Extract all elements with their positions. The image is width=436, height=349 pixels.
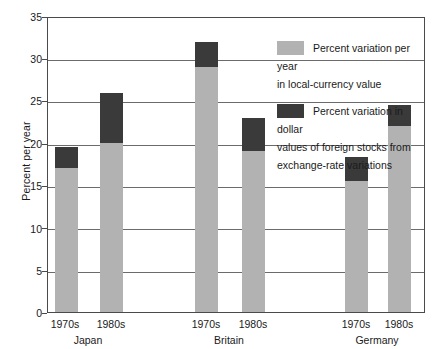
y-tick-label-20: 20 (12, 139, 42, 149)
bar-segment-fx (100, 93, 123, 143)
bar-segment-local (55, 168, 78, 312)
y-tick-label-0: 0 (12, 308, 42, 318)
legend-swatch-local-icon (277, 41, 304, 55)
y-tick-mark-0 (42, 313, 47, 314)
legend-swatch-fx-icon (277, 104, 304, 118)
bar-segment-local (100, 143, 123, 312)
bar-segment-local (242, 151, 265, 312)
y-tick-label-15: 15 (12, 181, 42, 191)
x-tick-label-britain-1980s: 1980s (223, 318, 283, 330)
y-axis-title: Percent per year (20, 101, 32, 221)
group-label-germany: Germany (332, 334, 422, 346)
group-label-japan: Japan (43, 334, 133, 346)
bar-segment-fx (242, 118, 265, 152)
bar-segment-fx (55, 147, 78, 168)
legend-entry-fx: Percent variation in dollar values of fo… (277, 101, 424, 173)
legend: Percent variation per year in local-curr… (277, 38, 424, 182)
bar-segment-fx (195, 42, 218, 67)
legend-entry-local: Percent variation per year in local-curr… (277, 38, 424, 92)
plot-area: Percent variation per year in local-curr… (47, 17, 425, 313)
bar-segment-local (195, 67, 218, 312)
y-tick-label-5: 5 (12, 266, 42, 276)
stacked-bar-chart: Percent per year 35 30 25 20 15 10 5 0 (0, 0, 436, 349)
x-tick-label-germany-1980s: 1980s (369, 318, 429, 330)
y-tick-label-10: 10 (12, 224, 42, 234)
y-tick-label-25: 25 (12, 96, 42, 106)
bar-segment-local (345, 181, 368, 312)
y-tick-label-35: 35 (12, 12, 42, 22)
x-tick-label-japan-1980s: 1980s (81, 318, 141, 330)
group-label-britain: Britain (184, 334, 274, 346)
y-tick-label-30: 30 (12, 54, 42, 64)
